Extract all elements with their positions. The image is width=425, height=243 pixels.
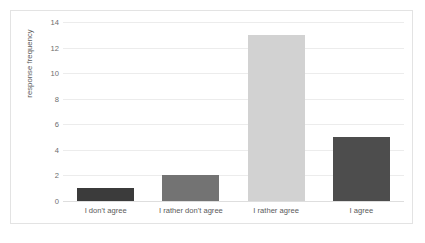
bar-slot xyxy=(234,22,319,201)
y-axis-tick-labels: 02468101214 xyxy=(33,11,59,223)
bar[interactable] xyxy=(162,175,219,201)
gridline xyxy=(63,201,404,202)
x-axis-tick-label: I agree xyxy=(319,203,404,219)
bar-chart-figure: response frequency 02468101214 I don't a… xyxy=(10,10,413,224)
y-axis-tick-label: 14 xyxy=(33,18,59,27)
y-axis-tick-label: 0 xyxy=(33,197,59,206)
x-axis-tick-labels: I don't agreeI rather don't agreeI rathe… xyxy=(63,203,404,219)
plot-wrapper: response frequency 02468101214 I don't a… xyxy=(11,11,412,223)
bar[interactable] xyxy=(333,137,390,201)
plot-area xyxy=(63,22,404,201)
x-axis-tick-label: I rather agree xyxy=(234,203,319,219)
y-axis-tick-label: 4 xyxy=(33,145,59,154)
x-axis-tick-label: I don't agree xyxy=(63,203,148,219)
bar-slot xyxy=(63,22,148,201)
bar-slot xyxy=(148,22,233,201)
y-axis-tick-label: 6 xyxy=(33,120,59,129)
y-axis-tick-label: 12 xyxy=(33,43,59,52)
bar-slot xyxy=(319,22,404,201)
bar[interactable] xyxy=(248,35,305,201)
x-axis-tick-label: I rather don't agree xyxy=(148,203,233,219)
y-axis-tick-label: 10 xyxy=(33,69,59,78)
y-axis-tick-label: 2 xyxy=(33,171,59,180)
bars-layer xyxy=(63,22,404,201)
bar[interactable] xyxy=(77,188,134,201)
y-axis-tick-label: 8 xyxy=(33,94,59,103)
